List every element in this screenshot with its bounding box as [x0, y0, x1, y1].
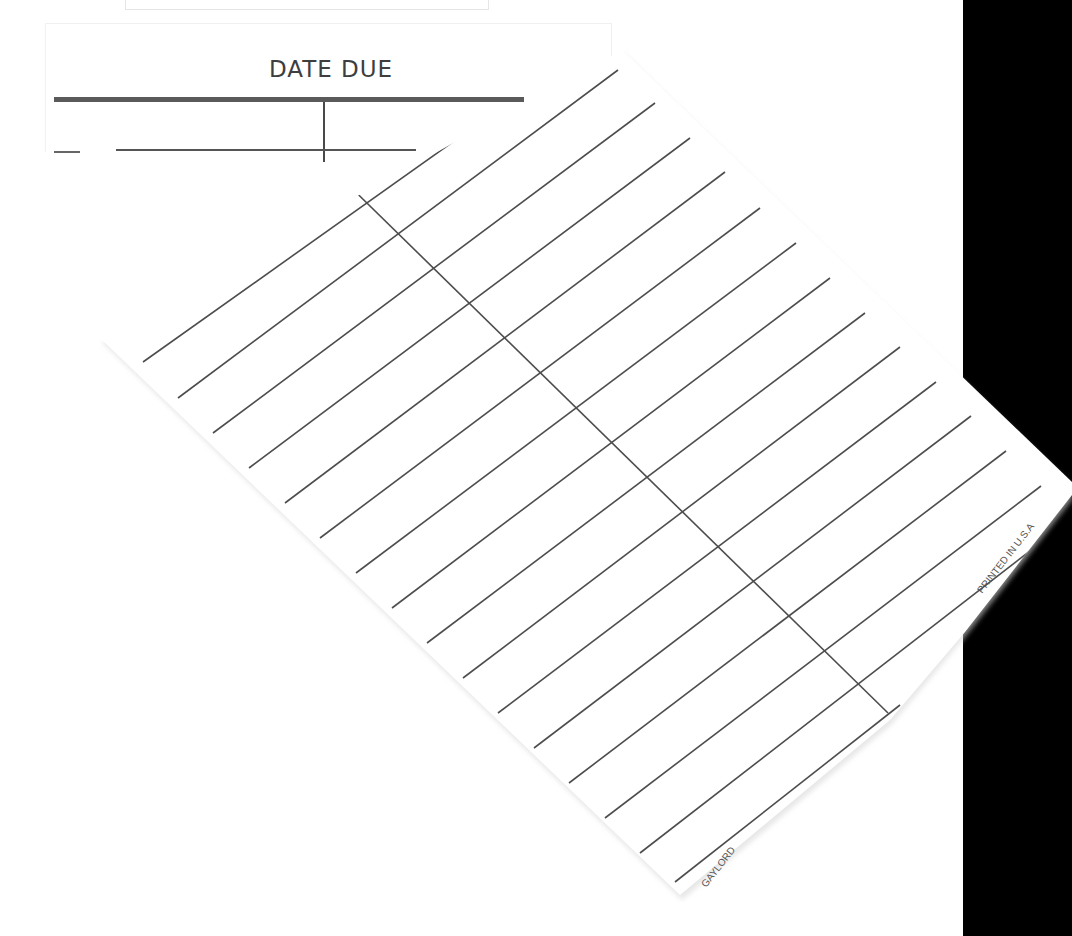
card-body — [100, 50, 1072, 895]
rotated-card: PRINTED IN U.S.A GAYLORD — [0, 0, 1072, 936]
